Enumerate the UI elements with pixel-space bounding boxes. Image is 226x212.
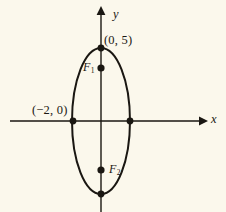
y-axis-label: y [113,8,119,21]
ellipse-figure: (0, 5) (−2, 0) y x F1 F2 [0,0,226,212]
focus-1-label: F1 [83,61,94,73]
focus-2-label: F2 [109,163,120,175]
focus-2-dot [97,166,104,173]
focus-1-dot [97,64,104,71]
focus-2-subscript: 2 [117,168,121,177]
vertex-top-label: (0, 5) [104,34,132,47]
focus-2-symbol: F [109,162,116,176]
focus-1-symbol: F [83,60,90,74]
focus-1-subscript: 1 [91,66,95,75]
vertex-bottom-dot [98,191,105,198]
vertex-right-dot [127,118,134,125]
y-axis-arrowhead [97,6,106,15]
x-axis-label: x [211,113,217,126]
x-axis-arrowhead [199,117,208,126]
vertex-left-label: (−2, 0) [32,104,68,117]
vertex-left-dot [70,118,77,125]
